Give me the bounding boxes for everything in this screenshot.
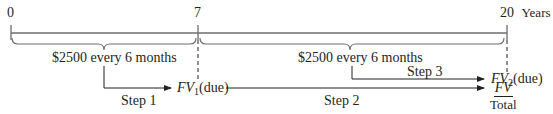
unit-label: Years bbox=[522, 5, 551, 20]
fv2-suffix: (due) bbox=[513, 71, 543, 86]
tick-label-0: 0 bbox=[7, 5, 14, 21]
fv1-main: FV bbox=[177, 80, 194, 95]
segment-label-0-7: $2500 every 6 months bbox=[52, 50, 177, 66]
tick-label-7: 7 bbox=[194, 5, 201, 21]
step1-arrow bbox=[104, 66, 171, 88]
timeline-axis bbox=[11, 25, 507, 40]
tick-label-20: 20 Years bbox=[500, 5, 551, 21]
brace-7-20 bbox=[200, 38, 504, 50]
fv1-due-label: FV1(due) bbox=[177, 80, 229, 96]
fv-total-main: FV bbox=[494, 80, 513, 97]
step1-label: Step 1 bbox=[121, 93, 156, 109]
tick-label-20-value: 20 bbox=[500, 5, 514, 20]
brace-0-7 bbox=[12, 38, 196, 50]
fv-total-den: Total bbox=[490, 97, 517, 113]
segment-label-7-20: $2500 every 6 months bbox=[298, 50, 423, 66]
step2-label: Step 2 bbox=[324, 93, 359, 109]
step3-label: Step 3 bbox=[407, 64, 442, 80]
fv-total-label: FV Total bbox=[490, 80, 517, 113]
fv1-suffix: (due) bbox=[199, 80, 229, 95]
